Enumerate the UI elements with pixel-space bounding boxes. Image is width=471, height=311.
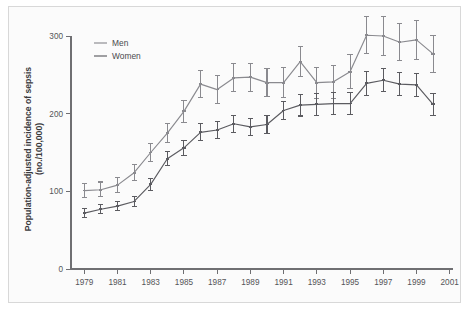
error-bar (165, 152, 170, 166)
axes-group: 0100200300197919811983198519871989199119… (23, 32, 459, 287)
series-women (82, 69, 436, 218)
series-line-women (84, 80, 433, 213)
error-bar (165, 124, 170, 143)
x-tick-label: 1985 (175, 278, 194, 287)
x-tick-label: 1995 (341, 278, 360, 287)
error-bar (148, 144, 153, 161)
error-bar (347, 55, 352, 89)
y-tick-label: 200 (49, 110, 63, 119)
y-tick-label: 300 (49, 32, 63, 41)
x-tick-label: 1997 (374, 278, 393, 287)
y-tick-label: 0 (58, 265, 63, 274)
error-bar (298, 47, 303, 77)
figure-frame: 0100200300197919811983198519871989199119… (8, 6, 461, 303)
x-tick-label: 1993 (308, 278, 327, 287)
y-tick-label: 100 (49, 187, 63, 196)
chart-plot-area: 0100200300197919811983198519871989199119… (9, 7, 462, 304)
error-bar (181, 140, 186, 156)
legend-label: Men (112, 38, 129, 48)
error-bar (181, 100, 186, 122)
legend-group: MenWomen (94, 38, 141, 61)
x-tick-label: 1991 (274, 278, 293, 287)
y-axis-title-line1: Population-adjusted incidence of sepsis (23, 67, 33, 231)
sepsis-incidence-line-chart: 0100200300197919811983198519871989199119… (9, 7, 462, 304)
x-tick-label: 1999 (407, 278, 426, 287)
error-bar (430, 35, 435, 72)
legend-item-women: Women (94, 51, 141, 61)
series-group (82, 17, 436, 218)
x-tick-label: 1979 (75, 278, 94, 287)
x-tick-label: 1987 (208, 278, 227, 287)
error-bar (430, 93, 435, 115)
legend-label: Women (112, 51, 141, 61)
legend-item-men: Men (94, 38, 129, 48)
error-bar (198, 70, 203, 97)
error-bar (115, 177, 120, 192)
y-axis-title-line2: (no./100,000) (34, 123, 44, 175)
error-bar (148, 178, 153, 190)
x-tick-label: 2001 (441, 278, 460, 287)
error-bar (132, 165, 137, 181)
x-tick-label: 1983 (142, 278, 161, 287)
series-men (82, 17, 436, 198)
x-tick-label: 1989 (241, 278, 260, 287)
x-tick-label: 1981 (108, 278, 127, 287)
